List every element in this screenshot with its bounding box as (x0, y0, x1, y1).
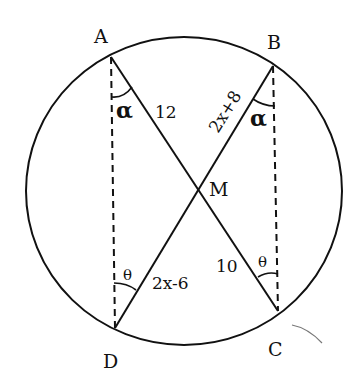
point-label-C: C (268, 338, 283, 360)
angle-arc-A (112, 87, 132, 97)
point-label-B: B (267, 31, 281, 53)
angle-label-B: α (250, 105, 267, 131)
segment-label-BM: 2x+8 (204, 87, 245, 136)
point-label-M: M (209, 178, 228, 200)
segment-label-CM: 10 (216, 256, 238, 276)
circle-chord-diagram: A B C D M 12 2x+8 2x-6 10 α α θ θ (0, 0, 362, 389)
point-label-A: A (93, 25, 108, 47)
segment-label-DM: 2x-6 (152, 273, 189, 293)
angle-arc-D (114, 283, 136, 290)
angle-arc-C (258, 273, 278, 277)
point-label-D: D (103, 350, 118, 372)
chord-AC (111, 57, 278, 311)
angle-label-C: θ (258, 253, 267, 271)
angle-label-A: α (116, 97, 133, 123)
segment-label-AM: 12 (155, 102, 177, 122)
stray-mark (292, 325, 322, 343)
angle-label-D: θ (123, 266, 132, 284)
circle (26, 37, 342, 345)
